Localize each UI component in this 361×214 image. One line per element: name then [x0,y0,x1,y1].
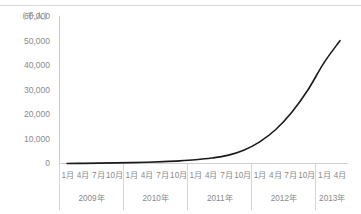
x-axis-month-label: 10月 [298,168,315,180]
x-axis-month-label: 10月 [106,168,123,180]
x-axis-month-label: 7月 [155,168,170,180]
y-axis-tick-label: 50,000 [24,36,50,46]
y-axis-tick-label: 10,000 [24,134,50,144]
x-axis-month-label: 10月 [170,168,187,180]
x-axis-month-label: 10月 [234,168,251,180]
x-axis-month-label: 4月 [75,168,90,180]
plot-area [59,16,348,164]
x-axis-year-group: 1月4月7月10月2011年 [187,164,251,210]
x-axis-month-label: 1月 [60,168,75,180]
x-axis-month-label: 7月 [283,168,298,180]
x-axis-year-group: 1月4月2013年 [315,164,348,210]
y-axis-tick-label: 40,000 [24,60,50,70]
x-axis-year-row: 2013年 [316,184,348,210]
x-axis-month-label: 4月 [139,168,154,180]
x-axis-month-label: 1月 [124,168,139,180]
x-axis-year-group: 1月4月7月10月2009年 [59,164,123,210]
x-axis-year-group: 1月4月7月10月2012年 [251,164,315,210]
x-axis-month-label: 1月 [252,168,267,180]
y-axis-tick-label: 60,000 [24,11,50,21]
x-axis-year-label: 2009年 [78,191,104,203]
x-axis-month-label: 1月 [316,168,332,180]
x-axis-year-label: 2010年 [143,191,169,203]
x-axis-month-label: 7月 [91,168,106,180]
x-axis-month-row: 1月4月 [316,164,348,184]
x-axis-month-row: 1月4月7月10月 [252,164,315,184]
x-axis-month-row: 1月4月7月10月 [188,164,251,184]
line-series-path [67,41,340,164]
x-axis-year-row: 2010年 [124,184,187,210]
x-axis-year-row: 2009年 [60,184,123,210]
x-axis-month-label: 1月 [188,168,203,180]
x-axis-month-row: 1月4月7月10月 [60,164,123,184]
x-axis-year-group: 1月4月7月10月2010年 [123,164,187,210]
x-axis-month-label: 7月 [219,168,234,180]
x-axis-year-label: 2013年 [319,191,345,203]
y-axis-tick-label: 0 [45,158,50,168]
x-axis-year-row: 2011年 [188,184,251,210]
x-axis-year-label: 2012年 [271,191,297,203]
y-axis-tick-label: 20,000 [24,109,50,119]
x-axis-month-row: 1月4月7月10月 [124,164,187,184]
x-axis-year-label: 2011年 [207,191,233,203]
x-axis-year-row: 2012年 [252,184,315,210]
x-axis-month-label: 4月 [268,168,283,180]
y-axis-tick-labels: 60,00050,00040,00030,00020,00010,0000 [0,0,56,214]
x-axis-label-block: 1月4月7月10月2009年1月4月7月10月2010年1月4月7月10月201… [59,164,348,210]
chart-figure: （千人） 60,00050,00040,00030,00020,00010,00… [0,0,361,214]
line-series-svg [59,16,348,164]
y-axis-tick-label: 30,000 [24,85,50,95]
x-axis-month-label: 4月 [204,168,219,180]
x-axis-month-label: 4月 [332,168,348,180]
